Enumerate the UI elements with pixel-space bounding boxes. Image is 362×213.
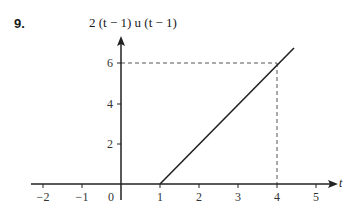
x-tick-label: −1 [76, 190, 89, 204]
y-tick-label: 6 [107, 56, 113, 70]
ramp-line [160, 48, 294, 184]
x-tick-label: 4 [274, 190, 280, 204]
x-tick-label: 3 [235, 190, 241, 204]
y-tick-label: 2 [107, 137, 113, 151]
plot-area: −2 −1 0 1 2 3 4 5 2 4 6 [0, 0, 362, 213]
x-tick-label: 2 [196, 190, 202, 204]
x-tick-label: 0 [108, 190, 114, 204]
y-tick-label: 4 [107, 97, 113, 111]
x-tick-label: 5 [313, 190, 319, 204]
x-tick-label: −2 [37, 190, 50, 204]
x-tick-label: 1 [157, 190, 163, 204]
